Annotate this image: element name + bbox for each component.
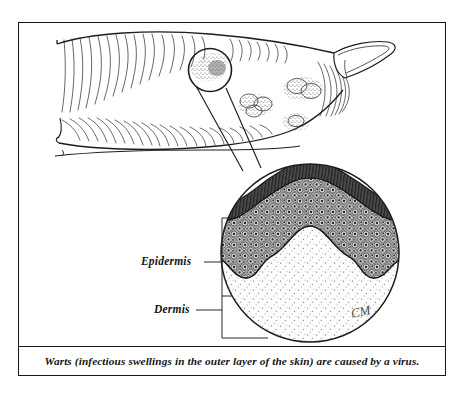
finger-illustration [55,32,395,156]
label-epidermis: Epidermis [141,255,191,267]
figure-caption: Warts (infectious swellings in the outer… [19,355,445,367]
figure-root: CM Epidermis Dermis Warts (infectious sw… [0,0,466,400]
cross-section-circle: CM [215,158,407,350]
illustration-canvas: CM [0,0,466,400]
caption-divider [19,346,445,347]
label-dermis: Dermis [154,303,190,315]
